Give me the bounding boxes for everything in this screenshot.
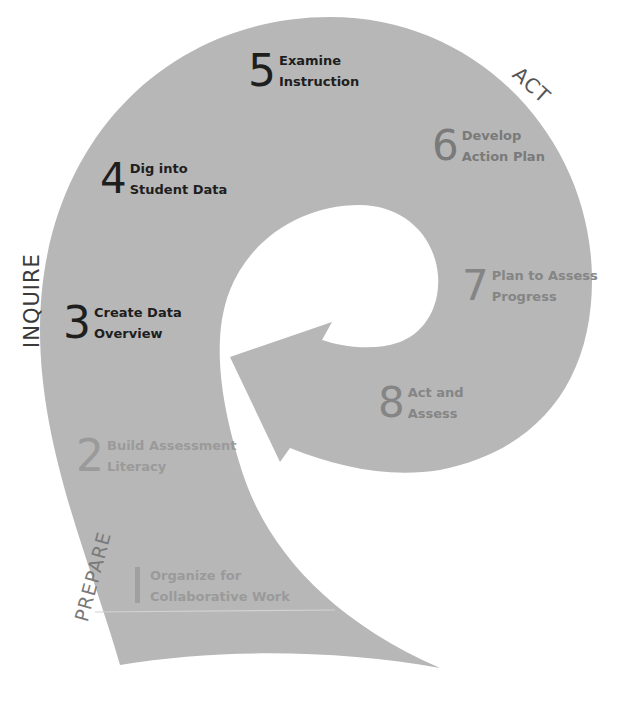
step-3-number: 3 [63, 303, 90, 343]
step-8-number: 8 [378, 383, 404, 423]
step-7-line2: Progress [492, 286, 598, 307]
step-4-line1: Dig into [130, 158, 228, 179]
step-7: 7 Plan to Assess Progress [462, 265, 598, 307]
step-3-line2: Overview [94, 323, 182, 344]
step-2-line2: Literacy [107, 456, 237, 477]
step-3: 3 Create Data Overview [63, 302, 182, 344]
step-1: 1 Organize for Collaborative Work [150, 565, 290, 607]
step-2-line1: Build Assessment [107, 435, 237, 456]
step-2-number: 2 [76, 436, 103, 476]
step-7-line1: Plan to Assess [492, 265, 598, 286]
step-8-line2: Assess [408, 403, 464, 424]
step-4-line2: Student Data [130, 179, 228, 200]
step-2: 2 Build Assessment Literacy [76, 435, 237, 477]
step-5-line2: Instruction [279, 71, 359, 92]
step-5-line1: Examine [279, 50, 359, 71]
step-7-number: 7 [462, 266, 488, 306]
step-4-number: 4 [100, 159, 126, 199]
step-6-line1: Develop [462, 125, 545, 146]
step-3-line1: Create Data [94, 302, 182, 323]
step-4: 4 Dig into Student Data [100, 158, 227, 200]
step-6: 6 Develop Action Plan [432, 125, 545, 167]
step-1-bar [135, 567, 140, 603]
step-6-number: 6 [432, 126, 458, 166]
step-1-line2: Collaborative Work [150, 586, 290, 607]
step-1-line1: Organize for [150, 565, 290, 586]
step-8-line1: Act and [408, 382, 464, 403]
step-5-number: 5 [248, 51, 275, 91]
step-6-line2: Action Plan [462, 146, 545, 167]
step-8: 8 Act and Assess [378, 382, 464, 424]
phase-label-inquire: INQUIRE [20, 253, 44, 348]
step-5: 5 Examine Instruction [248, 50, 359, 92]
